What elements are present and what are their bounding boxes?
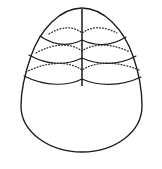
figure-container: Ovoid surface with latitudinal band cons… [0, 0, 162, 169]
ovoid-figure-svg: Ovoid surface with latitudinal band cons… [0, 0, 162, 169]
